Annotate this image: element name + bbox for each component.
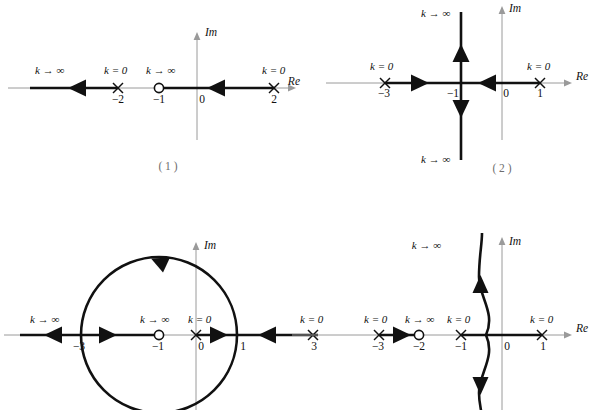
label-k-zero-minus3: k = 0 [370,60,394,72]
root-locus-plot-3: Im [0,205,306,410]
zero-marker-minus1 [154,330,163,339]
locus-asymptote-up [453,12,470,83]
tick-label-minus2: −2 [112,93,124,105]
tick-label-2: 2 [271,93,277,105]
tick-label-origin: 0 [503,87,509,99]
root-locus-plot-1: Re Im k → ∞ k = 0 k → ∞ k = 0 −2 −1 [0,0,306,205]
imaginary-axis [499,6,506,140]
locus-ray-left [20,327,81,344]
label-k-zero-minus3: k = 0 [364,313,388,325]
locus-segment-right [461,75,540,92]
locus-segment-center [159,80,275,97]
label-k-to-infinity-left: k → ∞ [30,313,59,325]
label-k-to-infinity-zero: k → ∞ [146,64,175,76]
axis-label-re: Re [287,75,300,87]
tick-label-minus1: −1 [153,93,165,105]
axis-label-im: Im [203,239,216,251]
tick-label-minus3: −3 [73,340,85,352]
axis-label-im: Im [508,2,521,14]
root-locus-plot-2: Re Im k → ∞ [306,0,612,205]
axis-label-re: Re [575,70,588,82]
locus-segment-left [81,327,155,344]
tick-label-1: 1 [537,87,543,99]
label-k-zero-1: k = 0 [527,60,551,72]
root-locus-plot-4: Re Im [306,205,612,410]
label-k-zero-2: k = 0 [262,64,286,76]
axis-label-re: Re [575,322,588,334]
tick-label-origin: 0 [504,340,510,352]
imaginary-axis [194,32,201,140]
locus-s-curve-down [473,335,490,410]
label-k-to-infinity-up: k → ∞ [421,7,450,19]
figure-caption-1: ( 1 ) [158,160,177,173]
label-k-to-infinity-zero: k → ∞ [405,313,434,325]
tick-label-minus3: −3 [378,87,390,99]
axis-label-im: Im [204,26,217,38]
axis-label-im: Im [508,235,521,247]
tick-label-1: 1 [240,340,246,352]
locus-ray-left [30,80,118,97]
label-k-to-infinity-up: k → ∞ [412,239,441,251]
tick-label-1: 1 [540,340,546,352]
label-k-zero-origin: k = 0 [188,313,212,325]
label-k-to-infinity-zero: k → ∞ [140,313,169,325]
tick-label-origin: 0 [199,93,205,105]
label-k-to-infinity-left: k → ∞ [35,64,64,76]
label-k-zero-minus2: k = 0 [104,64,128,76]
locus-s-curve-up [473,233,490,335]
tick-label-minus1: −1 [152,340,164,352]
tick-label-minus1: −1 [447,87,459,99]
figure-caption-2: ( 2 ) [492,162,511,175]
zero-marker-minus2 [414,330,423,339]
tick-label-minus1: −1 [455,340,467,352]
tick-label-minus2: −2 [413,340,425,352]
tick-label-minus3: −3 [372,340,384,352]
label-k-to-infinity-down: k → ∞ [421,153,450,165]
imaginary-axis [499,237,506,410]
zero-marker-minus1 [154,83,163,92]
tick-label-origin: 0 [198,340,204,352]
label-k-zero-minus1: k = 0 [447,313,471,325]
label-k-zero-1: k = 0 [530,313,554,325]
